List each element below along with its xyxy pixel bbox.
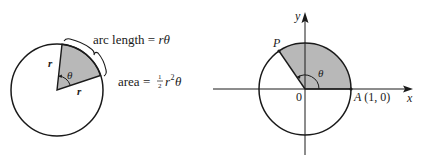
x-axis-label: x — [406, 91, 413, 105]
point-p-label: P — [272, 36, 281, 50]
svg-text:1: 1 — [158, 73, 162, 81]
angle-label: θ — [67, 69, 73, 81]
angle-label: θ — [318, 67, 324, 79]
point-a-marker — [349, 87, 352, 90]
diagram-canvas: r r θ arc length = rθ area = 1 2 r 2 θ — [0, 0, 433, 168]
radius-label-top: r — [48, 57, 53, 69]
area-formula: area = 1 2 r 2 θ — [118, 73, 182, 90]
right-figure: y x 0 P θ A(1, 0) — [213, 9, 413, 155]
point-a-label: A(1, 0) — [353, 90, 390, 104]
origin-label: 0 — [296, 90, 302, 104]
arc-length-label: arc length = rθ — [93, 32, 171, 47]
svg-text:2: 2 — [158, 82, 162, 90]
svg-text:2: 2 — [171, 73, 175, 82]
svg-text:area =: area = — [118, 74, 150, 89]
svg-text:θ: θ — [175, 74, 182, 89]
y-axis-label: y — [294, 9, 301, 23]
left-figure: r r θ arc length = rθ area = 1 2 r 2 θ — [11, 32, 182, 136]
radius-label-bottom: r — [77, 85, 82, 97]
